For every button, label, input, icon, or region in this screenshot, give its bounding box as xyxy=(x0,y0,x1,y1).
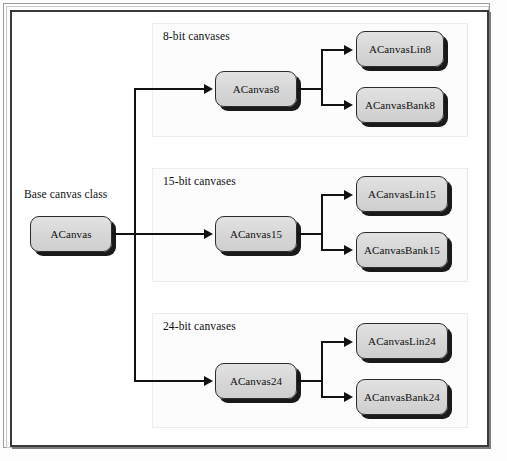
connector-acanvas24-to-lin24 xyxy=(321,341,346,343)
connector-trunk-to-acanvas8 xyxy=(134,88,206,90)
connector-acanvas24-to-bank24 xyxy=(321,396,346,398)
group-label-24bit: 24-bit canvases xyxy=(163,320,236,332)
arrowhead-to-acanvasbank8 xyxy=(344,100,353,110)
arrowhead-to-acanvaslin15 xyxy=(344,190,353,200)
node-acanvas[interactable]: ACanvas xyxy=(30,216,112,252)
connector-trunk-to-acanvas15 xyxy=(134,233,206,235)
connector-acanvas15-to-bank15 xyxy=(321,249,346,251)
arrowhead-to-acanvasbank24 xyxy=(344,392,353,402)
connector-trunk-vertical xyxy=(134,88,136,382)
connector-acanvas8-to-bank8 xyxy=(321,104,346,106)
connector-acanvas15-bus xyxy=(321,194,323,251)
diagram-canvas: Base canvas class ACanvas 8-bit canvases… xyxy=(0,0,507,461)
node-acanvasbank8[interactable]: ACanvasBank8 xyxy=(356,87,444,123)
group-label-8bit: 8-bit canvases xyxy=(163,30,230,42)
connector-acanvas8-bus xyxy=(321,49,323,106)
node-acanvas15[interactable]: ACanvas15 xyxy=(215,216,297,252)
node-acanvasbank15[interactable]: ACanvasBank15 xyxy=(356,232,448,268)
connector-base-to-trunk xyxy=(112,233,136,235)
node-acanvaslin8[interactable]: ACanvasLin8 xyxy=(356,31,444,67)
base-canvas-caption: Base canvas class xyxy=(24,188,107,200)
arrowhead-to-acanvas15 xyxy=(204,229,213,239)
connector-acanvas8-stub xyxy=(297,88,323,90)
connector-acanvas24-stub xyxy=(297,380,323,382)
node-acanvaslin24[interactable]: ACanvasLin24 xyxy=(356,323,448,359)
node-acanvas8[interactable]: ACanvas8 xyxy=(215,71,297,107)
node-acanvasbank24[interactable]: ACanvasBank24 xyxy=(356,379,448,415)
group-label-15bit: 15-bit canvases xyxy=(163,175,236,187)
connector-acanvas15-stub xyxy=(297,233,323,235)
node-acanvas24[interactable]: ACanvas24 xyxy=(215,363,297,399)
arrowhead-to-acanvasbank15 xyxy=(344,245,353,255)
connector-trunk-to-acanvas24 xyxy=(134,380,206,382)
node-acanvaslin15[interactable]: ACanvasLin15 xyxy=(356,176,448,212)
arrowhead-to-acanvaslin8 xyxy=(344,45,353,55)
connector-acanvas24-bus xyxy=(321,341,323,398)
arrowhead-to-acanvas24 xyxy=(204,376,213,386)
arrowhead-to-acanvas8 xyxy=(204,84,213,94)
connector-acanvas15-to-lin15 xyxy=(321,194,346,196)
connector-acanvas8-to-lin8 xyxy=(321,49,346,51)
arrowhead-to-acanvaslin24 xyxy=(344,337,353,347)
